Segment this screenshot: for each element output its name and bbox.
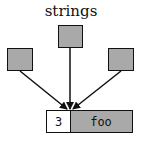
diagram: strings 3 foo bbox=[0, 0, 142, 145]
value-field: foo bbox=[70, 110, 133, 133]
length-field: 3 bbox=[46, 110, 71, 133]
arrow-left bbox=[20, 71, 67, 109]
arrow-right bbox=[73, 71, 121, 109]
